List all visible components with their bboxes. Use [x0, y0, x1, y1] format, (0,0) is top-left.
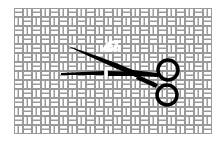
illustration: Scissors cutting thread on woven fabric: [0, 0, 223, 142]
weave-pattern: [14, 8, 212, 134]
